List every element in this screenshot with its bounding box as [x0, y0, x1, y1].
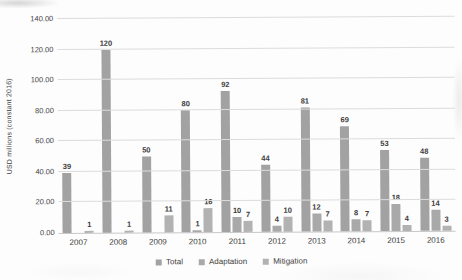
legend-label: Mitigation [273, 257, 307, 266]
bar: 18 [391, 203, 400, 231]
bar: 11 [164, 216, 173, 233]
x-tick-label: 2011 [217, 237, 257, 246]
x-tick-label: 2007 [59, 238, 99, 247]
bar: 44 [261, 165, 270, 232]
legend: TotalAdaptationMitigation [1, 256, 462, 268]
y-tick-label: 60.00 [0, 137, 54, 145]
bar-value-label: 44 [261, 154, 269, 163]
bar-value-label: 7 [325, 210, 329, 219]
y-tick-label: 80.00 [0, 107, 54, 115]
bar-value-label: 120 [100, 38, 113, 47]
bar-value-label: 1 [87, 220, 91, 229]
x-axis-tick-labels: 2007200820092010201120122013201420152016 [59, 236, 456, 247]
bar: 53 [380, 150, 389, 231]
bar: 12 [312, 213, 321, 231]
bar-value-label: 92 [221, 80, 229, 89]
legend-label: Adaptation [209, 257, 247, 266]
bar: 8 [352, 219, 361, 231]
bar: 39 [63, 173, 72, 233]
y-axis-tick-labels: 0.0020.0040.0060.0080.00100.00120.00140.… [0, 19, 55, 233]
y-tick-label: 20.00 [0, 199, 54, 207]
bar-value-label: 80 [182, 99, 190, 108]
bar: 1 [193, 231, 202, 233]
plot-area: 3911201501180116921074441081127698753184… [57, 17, 455, 234]
bar: 16 [204, 208, 213, 233]
x-tick-label: 2008 [98, 238, 138, 247]
bar: 10 [283, 216, 292, 231]
x-tick-label: 2015 [376, 236, 416, 245]
legend-label: Total [166, 257, 183, 266]
bar-value-label: 10 [284, 205, 292, 214]
bar: 3 [442, 226, 451, 231]
bar-value-label: 50 [142, 145, 150, 154]
legend-item: Total [156, 257, 183, 266]
x-tick-label: 2016 [416, 236, 456, 245]
bar-value-label: 69 [340, 115, 348, 124]
legend-item: Mitigation [263, 257, 307, 266]
bar: 4 [272, 226, 281, 232]
bar: 7 [323, 221, 332, 232]
bar-value-label: 7 [246, 210, 250, 219]
legend-marker-icon [199, 259, 205, 265]
bar: 4 [402, 225, 411, 231]
bar-value-label: 4 [405, 214, 409, 223]
bar-value-label: 1 [195, 220, 199, 229]
y-tick-label: 120.00 [0, 46, 53, 54]
bar: 10 [233, 217, 242, 232]
bar-value-label: 11 [165, 205, 173, 214]
bar-value-label: 8 [354, 208, 358, 217]
y-tick-label: 140.00 [0, 15, 53, 23]
bar-value-label: 48 [420, 146, 428, 155]
bar: 92 [221, 91, 231, 232]
y-tick-label: 40.00 [0, 168, 54, 176]
bar-value-label: 3 [445, 215, 449, 224]
bar-value-label: 53 [380, 139, 388, 148]
x-tick-label: 2014 [337, 236, 377, 245]
chart-canvas: USD millions (constant 2016) 0.0020.0040… [0, 0, 462, 280]
bar: 7 [244, 221, 253, 232]
bar: 1 [125, 231, 134, 233]
legend-item: Adaptation [199, 257, 247, 266]
legend-marker-icon [263, 258, 269, 264]
bar-value-label: 4 [275, 215, 279, 224]
x-tick-label: 2009 [138, 237, 178, 246]
legend-marker-icon [156, 259, 162, 265]
bar-value-label: 12 [312, 202, 320, 211]
bar: 1 [85, 231, 94, 233]
bar: 50 [142, 156, 151, 232]
bar: 14 [431, 209, 440, 230]
y-tick-label: 0.00 [1, 229, 55, 237]
bar: 7 [363, 220, 372, 231]
bar: 69 [340, 126, 350, 232]
x-tick-label: 2010 [178, 237, 218, 246]
bar-value-label: 7 [365, 209, 369, 218]
x-tick-label: 2013 [297, 236, 337, 245]
bar-value-label: 10 [233, 206, 241, 215]
bar-value-label: 1 [127, 220, 131, 229]
x-tick-label: 2012 [257, 237, 297, 246]
chart-figure: USD millions (constant 2016) 0.0020.0040… [0, 0, 462, 280]
y-tick-label: 100.00 [0, 76, 54, 84]
bar-value-label: 81 [301, 97, 309, 106]
